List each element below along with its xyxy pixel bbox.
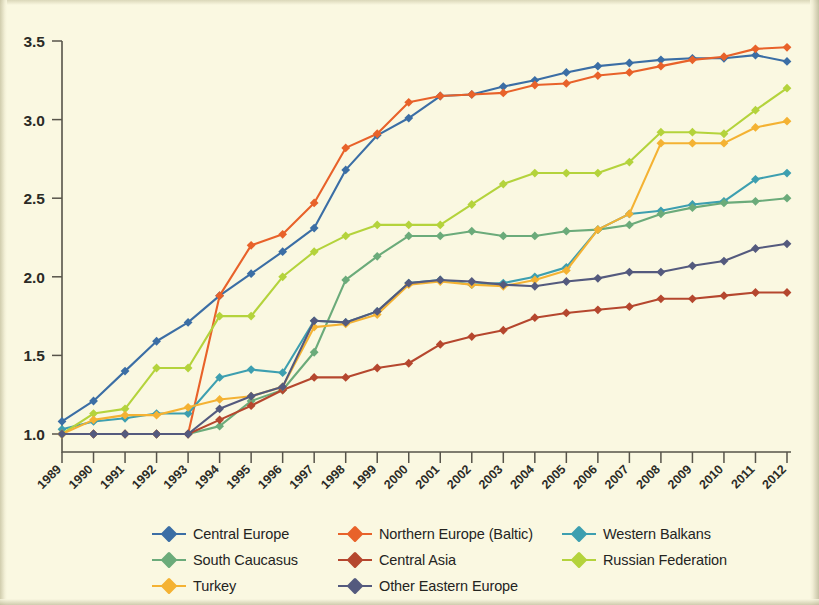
series-marker [783, 239, 792, 248]
series-marker [152, 411, 161, 420]
chart-series [58, 288, 792, 438]
series-line [62, 121, 787, 434]
x-tick-label: 1999 [350, 462, 380, 492]
series-marker [373, 221, 382, 230]
series-marker [215, 395, 224, 404]
legend-item-south-caucasus[interactable]: South Caucasus [152, 547, 338, 573]
series-marker [751, 44, 760, 53]
x-tick-label: 2006 [570, 462, 600, 492]
series-marker [625, 210, 634, 219]
series-marker [121, 430, 130, 439]
legend-item-other-eastern-europe[interactable]: Other Eastern Europe [338, 573, 562, 599]
series-marker [720, 257, 729, 266]
series-marker [499, 326, 508, 335]
series-marker [783, 117, 792, 126]
y-tick-label: 3.5 [23, 33, 45, 50]
series-line [62, 198, 787, 434]
series-marker [562, 79, 571, 88]
series-marker [467, 332, 476, 341]
series-marker [341, 232, 350, 241]
chart-series [58, 117, 792, 439]
series-marker [310, 373, 319, 382]
series-marker [751, 288, 760, 297]
chart-series-group [58, 43, 792, 439]
y-axis-ticks: 1.01.52.02.53.03.5 [23, 33, 62, 443]
x-tick-label: 2002 [444, 462, 474, 492]
series-marker [436, 232, 445, 241]
x-tick-label: 1992 [129, 462, 159, 492]
series-marker [467, 227, 476, 236]
chart-legend: Central EuropeNorthern Europe (Baltic)We… [152, 521, 802, 599]
series-marker [499, 88, 508, 97]
series-marker [530, 169, 539, 178]
series-marker [783, 288, 792, 297]
x-tick-label: 1991 [98, 462, 128, 492]
series-marker [562, 309, 571, 318]
legend-label: Central Asia [379, 552, 456, 568]
legend-diamond-marker-icon [562, 526, 596, 542]
x-tick-label: 2001 [413, 462, 443, 492]
series-marker [783, 57, 792, 66]
legend-label: Northern Europe (Baltic) [379, 526, 533, 542]
series-marker [562, 277, 571, 286]
series-marker [783, 194, 792, 203]
series-marker [152, 430, 161, 439]
series-marker [593, 62, 602, 71]
chart-figure: 1.01.52.02.53.03.5 198919901991199219931… [0, 0, 819, 605]
legend-item-western-balkans[interactable]: Western Balkans [562, 521, 792, 547]
legend-row: TurkeyOther Eastern Europe [152, 573, 802, 599]
legend-item-russian-federation[interactable]: Russian Federation [562, 547, 792, 573]
x-tick-label: 2004 [507, 462, 537, 492]
legend-diamond-marker-icon [562, 552, 596, 568]
x-tick-label: 2009 [665, 462, 695, 492]
x-tick-label: 1989 [35, 462, 65, 492]
legend-label: Turkey [193, 578, 236, 594]
x-tick-label: 2008 [633, 462, 663, 492]
series-marker [657, 62, 666, 71]
series-marker [404, 221, 413, 230]
x-tick-label: 1993 [161, 462, 191, 492]
series-line [62, 244, 787, 434]
y-tick-label: 2.5 [23, 190, 45, 207]
series-marker [562, 169, 571, 178]
series-line [62, 47, 787, 434]
legend-item-northern-europe-baltic[interactable]: Northern Europe (Baltic) [338, 521, 562, 547]
legend-diamond-marker-icon [338, 552, 372, 568]
legend-diamond-marker-icon [338, 578, 372, 594]
legend-label: Western Balkans [603, 526, 711, 542]
series-marker [688, 128, 697, 137]
series-line [62, 88, 787, 434]
series-marker [593, 169, 602, 178]
y-tick-label: 3.0 [23, 112, 45, 129]
series-marker [751, 123, 760, 132]
legend-item-central-asia[interactable]: Central Asia [338, 547, 562, 573]
x-tick-label: 1994 [192, 462, 222, 492]
legend-item-turkey[interactable]: Turkey [152, 573, 338, 599]
series-marker [530, 232, 539, 241]
series-marker [436, 340, 445, 349]
x-tick-label: 1990 [66, 462, 96, 492]
x-tick-label: 2007 [602, 462, 632, 492]
y-tick-label: 1.5 [23, 347, 45, 364]
legend-item-central-europe[interactable]: Central Europe [152, 521, 338, 547]
series-marker [89, 430, 98, 439]
series-line [62, 55, 787, 421]
legend-diamond-marker-icon [338, 526, 372, 542]
series-marker [751, 244, 760, 253]
legend-diamond-marker-icon [152, 552, 186, 568]
x-tick-label: 2010 [697, 462, 727, 492]
x-tick-label: 2012 [760, 462, 790, 492]
chart-series [58, 194, 792, 439]
series-marker [783, 169, 792, 178]
series-marker [593, 305, 602, 314]
series-marker [688, 139, 697, 148]
legend-diamond-marker-icon [152, 578, 186, 594]
series-marker [593, 274, 602, 283]
series-marker [499, 232, 508, 241]
series-marker [467, 90, 476, 99]
chart-axes [62, 41, 791, 452]
series-marker [657, 139, 666, 148]
series-marker [625, 268, 634, 277]
x-tick-label: 2011 [729, 462, 758, 491]
series-marker [404, 359, 413, 368]
